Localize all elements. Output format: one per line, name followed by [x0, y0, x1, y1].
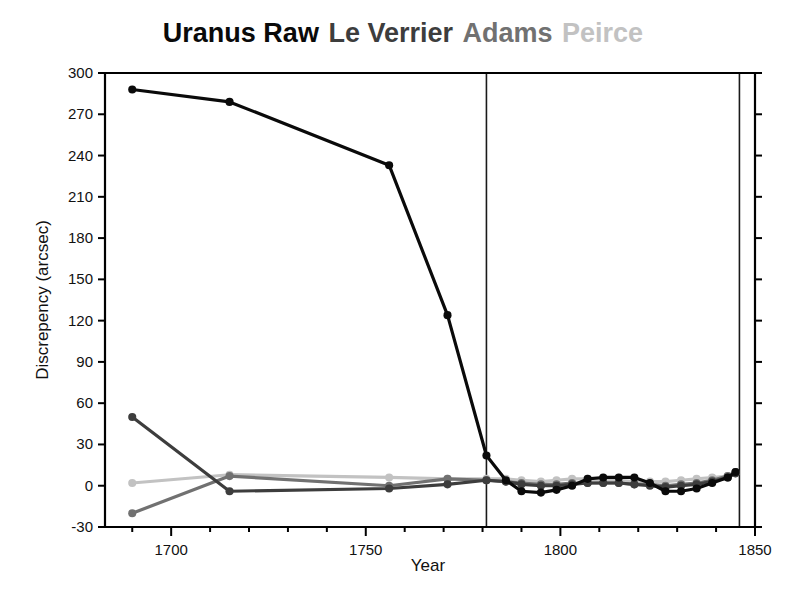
data-series-group	[128, 85, 739, 517]
y-tick-label: 0	[85, 477, 93, 494]
y-tick-label: 60	[76, 394, 93, 411]
series-line	[132, 90, 735, 493]
data-point	[646, 479, 654, 487]
data-point	[443, 480, 451, 488]
data-point	[724, 473, 732, 481]
y-tick-label-group: -300306090120150180210240270300	[68, 64, 93, 535]
y-tick-mark-group	[98, 73, 762, 527]
data-point	[517, 487, 525, 495]
data-point	[630, 473, 638, 481]
data-point	[128, 479, 136, 487]
chart-figure: Uranus Raw Le Verrier Adams Peirce -3003…	[0, 0, 806, 599]
y-tick-label: 240	[68, 147, 93, 164]
y-tick-label: 90	[76, 353, 93, 370]
data-point	[385, 161, 393, 169]
data-point	[128, 413, 136, 421]
y-tick-label: 210	[68, 188, 93, 205]
data-point	[537, 489, 545, 497]
data-point	[599, 473, 607, 481]
y-tick-label: 30	[76, 435, 93, 452]
series-uranus-raw	[128, 85, 739, 496]
data-point	[731, 468, 739, 476]
x-tick-label: 1750	[349, 541, 382, 558]
data-point	[482, 451, 490, 459]
data-point	[677, 487, 685, 495]
data-point	[226, 487, 234, 495]
data-point	[482, 476, 490, 484]
plot-area: -300306090120150180210240270300 17001750…	[0, 0, 806, 599]
data-point	[615, 473, 623, 481]
axis-frame	[105, 73, 755, 527]
data-point	[502, 476, 510, 484]
data-point	[226, 472, 234, 480]
y-axis-title: Discrepency (arcsec)	[33, 220, 52, 380]
y-tick-label: 270	[68, 105, 93, 122]
data-point	[226, 98, 234, 106]
data-point	[385, 484, 393, 492]
data-point	[661, 487, 669, 495]
x-tick-label: 1800	[544, 541, 577, 558]
data-point	[443, 311, 451, 319]
x-tick-mark-group	[132, 527, 755, 536]
data-point	[584, 475, 592, 483]
annotation-vline-group	[486, 73, 739, 527]
y-tick-label: 300	[68, 64, 93, 81]
x-tick-label: 1850	[738, 541, 771, 558]
x-axis-title: Year	[411, 556, 446, 575]
data-point	[128, 509, 136, 517]
data-point	[385, 473, 393, 481]
x-tick-label: 1700	[154, 541, 187, 558]
data-point	[128, 85, 136, 93]
x-tick-label-group: 1700175018001850	[154, 541, 771, 558]
y-tick-label: 150	[68, 270, 93, 287]
data-point	[693, 484, 701, 492]
y-tick-label: 180	[68, 229, 93, 246]
data-point	[552, 486, 560, 494]
data-point	[568, 482, 576, 490]
y-tick-label: -30	[71, 518, 93, 535]
y-tick-label: 120	[68, 312, 93, 329]
data-point	[708, 479, 716, 487]
